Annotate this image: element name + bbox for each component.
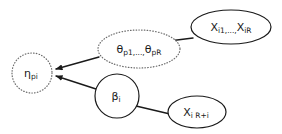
- beta-i-node[interactable]: βi: [95, 74, 139, 118]
- diagram-svg: Xi1,...,XiR θp1,...,θpR ηpi βi: [0, 0, 282, 134]
- edge-beta-to-eta: [56, 76, 96, 89]
- edge-theta-to-eta: [56, 57, 99, 69]
- theta-p1-pR-node[interactable]: θp1,...,θpR: [98, 30, 180, 68]
- x-i1-iR-node[interactable]: Xi1,...,XiR: [191, 10, 271, 44]
- eta-pi-node[interactable]: ηpi: [12, 53, 52, 93]
- diagram-canvas: Xi1,...,XiR θp1,...,θpR ηpi βi: [0, 0, 282, 134]
- edge-beta-to-x-i-R-plus-i: [136, 106, 170, 114]
- x-i-R-plus-i-node[interactable]: Xi R+i: [168, 96, 226, 128]
